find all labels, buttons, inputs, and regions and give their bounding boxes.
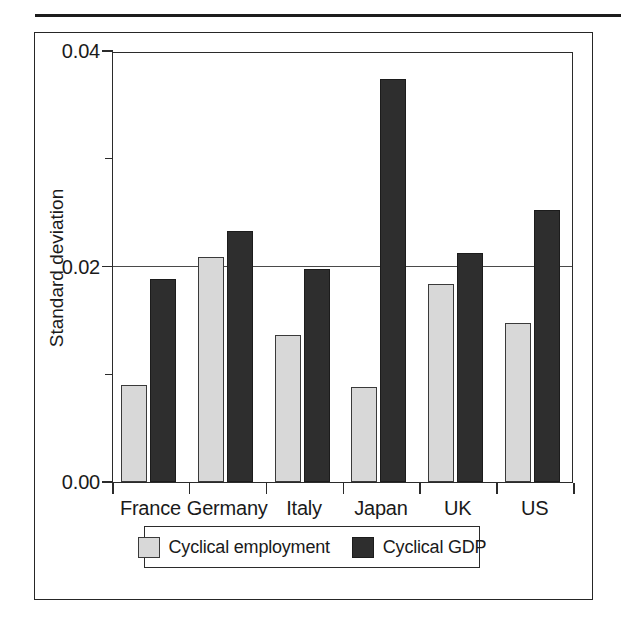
- bar-france-cyclical-gdp: [150, 279, 176, 482]
- x-axis-label-us: US: [521, 497, 548, 520]
- y-axis-tick-label: 0.04: [62, 40, 100, 63]
- bar-france-cyclical-employment: [121, 385, 147, 482]
- bar-us-cyclical-employment: [505, 323, 531, 482]
- x-axis: FranceGermanyItalyJapanUKUS: [112, 483, 573, 523]
- x-axis-separator-tick: [266, 483, 268, 494]
- x-axis-separator-tick: [189, 483, 191, 494]
- x-axis-label-italy: Italy: [286, 497, 322, 520]
- bar-uk-cyclical-employment: [428, 284, 454, 482]
- bar-uk-cyclical-gdp: [457, 253, 483, 483]
- x-axis-separator-tick: [419, 483, 421, 494]
- x-axis-separator-tick: [573, 483, 575, 494]
- bar-italy-cyclical-gdp: [304, 269, 330, 482]
- page-top-rule: [35, 14, 621, 17]
- bar-italy-cyclical-employment: [275, 335, 301, 482]
- x-axis-label-germany: Germany: [187, 497, 268, 520]
- y-axis-tick-label: 0.00: [62, 471, 100, 494]
- bar-us-cyclical-gdp: [534, 210, 560, 482]
- legend-entry-cyclical-employment: Cyclical employment: [138, 537, 330, 558]
- bar-germany-cyclical-gdp: [227, 231, 253, 482]
- legend-swatch-icon: [138, 537, 160, 558]
- x-axis-separator-tick: [496, 483, 498, 494]
- x-axis-label-uk: UK: [444, 497, 471, 520]
- bar-japan-cyclical-gdp: [380, 79, 406, 482]
- legend-entry-cyclical-gdp: Cyclical GDP: [352, 537, 487, 558]
- x-axis-separator-tick: [112, 483, 114, 494]
- y-axis-tick-minor: [105, 158, 113, 159]
- y-axis-tick-minor: [105, 374, 113, 375]
- x-axis-label-france: France: [120, 497, 181, 520]
- plot-area: 0.000.020.04: [112, 52, 573, 483]
- y-axis-tick-label: 0.02: [62, 255, 100, 278]
- legend-swatch-icon: [352, 537, 374, 558]
- x-axis-separator-tick: [343, 483, 345, 494]
- bar-germany-cyclical-employment: [198, 257, 224, 482]
- x-axis-label-japan: Japan: [354, 497, 408, 520]
- bars-layer: [113, 53, 572, 482]
- legend-label: Cyclical employment: [169, 537, 330, 558]
- figure-root: Standard deviation 0.000.020.04 FranceGe…: [0, 0, 621, 621]
- bar-japan-cyclical-employment: [351, 387, 377, 482]
- y-axis-tick-major: [102, 50, 113, 52]
- legend-label: Cyclical GDP: [383, 537, 487, 558]
- y-axis-tick-major: [102, 266, 113, 268]
- chart-legend: Cyclical employmentCyclical GDP: [144, 526, 480, 568]
